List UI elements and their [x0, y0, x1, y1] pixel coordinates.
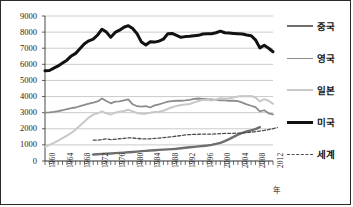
legend-item-4[interactable]: 미국	[287, 115, 335, 129]
legend-line-swatch	[287, 89, 313, 91]
x-axis-tick-label: 1992	[188, 153, 197, 168]
x-axis-tick-label: 1960	[48, 153, 57, 168]
x-axis-tick-label: 2004	[241, 153, 250, 168]
legend-label: 일본	[317, 83, 335, 97]
axis-lines	[45, 16, 273, 161]
x-axis-tick-label: 2000	[223, 153, 232, 168]
legend-label: 영국	[317, 51, 335, 65]
legend-item-2[interactable]: 영국	[287, 51, 335, 65]
x-axis-tick-label: 1980	[136, 153, 145, 168]
x-axis-tick-label: 1988	[171, 153, 180, 168]
y-axis-tick-label: 0	[7, 157, 37, 165]
x-axis-tick-label: 1964	[66, 153, 75, 168]
y-axis-tick-label: 4000	[7, 92, 37, 100]
x-axis-unit-label: 年	[273, 184, 281, 195]
y-axis-tick-label: 6000	[7, 60, 37, 68]
x-axis-tick-label: 1976	[118, 153, 127, 168]
legend-line-swatch	[287, 121, 313, 124]
plot-area: 0100020003000400050006000700080009000 19…	[1, 1, 286, 206]
y-axis-tick-label: 8000	[7, 28, 37, 36]
legend-line-swatch	[287, 154, 313, 155]
legend-item-3[interactable]: 일본	[287, 83, 335, 97]
series-line	[93, 127, 260, 154]
legend-item-5[interactable]: 세계	[287, 147, 335, 161]
legend-label: 세계	[317, 147, 335, 161]
x-axis-tick-label: 2008	[258, 153, 267, 168]
legend-line-swatch	[287, 25, 313, 27]
x-axis-tick-label: 1972	[101, 153, 110, 168]
legend-line-swatch	[287, 58, 313, 59]
x-axis-tick-label: 1996	[206, 153, 215, 168]
y-axis-tick-label: 2000	[7, 124, 37, 132]
gridlines	[42, 16, 273, 161]
y-axis-tick-label: 9000	[7, 12, 37, 20]
chart-svg	[1, 1, 286, 206]
chart-legend: 중국영국일본미국세계	[287, 19, 351, 189]
chart-figure: 0100020003000400050006000700080009000 19…	[0, 0, 351, 205]
series-lines	[45, 26, 277, 155]
legend-label: 미국	[317, 115, 335, 129]
y-axis-tick-label: 7000	[7, 44, 37, 52]
y-axis-tick-label: 3000	[7, 108, 37, 116]
x-axis-tick-label: 1984	[153, 153, 162, 168]
y-axis-tick-label: 1000	[7, 140, 37, 148]
y-axis-tick-label: 5000	[7, 76, 37, 84]
x-axis-tick-label: 2012	[276, 153, 285, 168]
x-axis-tick-label: 1968	[83, 153, 92, 168]
legend-label: 중국	[317, 19, 335, 33]
legend-item-1[interactable]: 중국	[287, 19, 335, 33]
